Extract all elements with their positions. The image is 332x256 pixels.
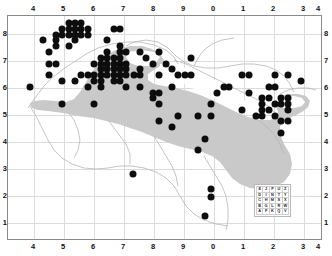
occurrence-dot	[27, 83, 34, 90]
axis-tick-left-7: 1	[0, 219, 7, 227]
occurrence-dot	[97, 83, 104, 90]
occurrence-dot	[149, 60, 156, 67]
axis-tick-bottom-4: 8	[146, 243, 160, 251]
utm-letter-grid-legend: E J P U Z D I N T Y C H M S X B	[254, 184, 291, 217]
occurrence-dot	[188, 54, 195, 61]
axis-tick-left-4: 4	[0, 138, 7, 146]
occurrence-dot	[207, 185, 214, 192]
axis-tick-top-10: 4	[311, 5, 325, 13]
occurrence-dot	[117, 25, 124, 32]
occurrence-dot	[156, 72, 163, 79]
occurrence-dot	[84, 31, 91, 38]
distribution-map-figure: 4 5 6 7 8 9 0 1 2 3 4 4 5 6 7 8 9 0 1 2 …	[0, 0, 332, 256]
occurrence-dot	[130, 170, 137, 177]
occurrence-dot	[194, 147, 201, 154]
occurrence-dot	[239, 106, 246, 113]
occurrence-dot	[59, 101, 66, 108]
axis-tick-bottom-8: 2	[266, 243, 280, 251]
occurrence-dot	[156, 49, 163, 56]
occurrence-dot	[136, 72, 143, 79]
occurrence-dot	[201, 212, 208, 219]
occurrence-dot	[278, 130, 285, 137]
axis-tick-left-3: 5	[0, 111, 7, 119]
occurrence-dot	[226, 83, 233, 90]
axis-tick-top-4: 8	[146, 5, 160, 13]
occurrence-dot	[59, 77, 66, 84]
occurrence-dot	[52, 43, 59, 50]
axis-tick-bottom-5: 9	[176, 243, 190, 251]
occurrence-dot	[168, 66, 175, 73]
occurrence-dot	[84, 83, 91, 90]
occurrence-dot	[245, 89, 252, 96]
axis-tick-left-2: 6	[0, 84, 7, 92]
occurrence-dot	[65, 43, 72, 50]
occurrence-dot	[39, 37, 46, 44]
occurrence-dot	[142, 54, 149, 61]
axis-tick-right-3: 5	[324, 111, 332, 119]
legend-letter-table: E J P U Z D I N T Y C H M S X B	[256, 186, 289, 215]
occurrence-dot	[207, 193, 214, 200]
occurrence-dot	[265, 106, 272, 113]
axis-tick-right-0: 8	[324, 30, 332, 38]
axis-tick-top-3: 7	[116, 5, 130, 13]
occurrence-dot	[52, 60, 59, 67]
axis-tick-top-8: 2	[266, 5, 280, 13]
axis-tick-top-2: 6	[86, 5, 100, 13]
axis-tick-right-1: 7	[324, 57, 332, 65]
occurrence-dot	[136, 83, 143, 90]
axis-tick-bottom-1: 5	[56, 243, 70, 251]
axis-tick-top-5: 9	[176, 5, 190, 13]
occurrence-dot	[71, 77, 78, 84]
occurrence-dot	[175, 112, 182, 119]
axis-tick-bottom-7: 1	[236, 243, 250, 251]
occurrence-dot	[162, 60, 169, 67]
occurrence-dot	[168, 124, 175, 131]
axis-tick-top-6: 0	[206, 5, 220, 13]
occurrence-dot	[297, 77, 304, 84]
occurrence-dot	[265, 95, 272, 102]
occurrence-dot	[272, 72, 279, 79]
legend-row: A F K Q V	[257, 209, 289, 215]
occurrence-dot	[188, 72, 195, 79]
occurrence-dot	[245, 72, 252, 79]
occurrence-dot	[214, 89, 221, 96]
axis-tick-bottom-0: 4	[26, 243, 40, 251]
axis-tick-bottom-6: 0	[206, 243, 220, 251]
axis-tick-right-7: 1	[324, 219, 332, 227]
occurrence-dot	[123, 83, 130, 90]
occurrence-dot	[285, 72, 292, 79]
occurrence-dot	[117, 77, 124, 84]
occurrence-dot	[258, 112, 265, 119]
axis-tick-right-4: 4	[324, 138, 332, 146]
occurrence-dot	[207, 101, 214, 108]
occurrence-dot	[201, 135, 208, 142]
axis-tick-bottom-9: 3	[296, 243, 310, 251]
occurrence-dot	[46, 72, 53, 79]
axis-tick-bottom-2: 6	[86, 243, 100, 251]
occurrence-dot	[285, 118, 292, 125]
axis-tick-left-1: 7	[0, 57, 7, 65]
occurrence-dot	[285, 106, 292, 113]
axis-tick-top-0: 4	[26, 5, 40, 13]
axis-tick-left-5: 3	[0, 165, 7, 173]
occurrence-dot	[168, 83, 175, 90]
occurrence-dot	[104, 37, 111, 44]
occurrence-dot	[46, 49, 53, 56]
axis-tick-bottom-3: 7	[116, 243, 130, 251]
axis-tick-left-0: 8	[0, 30, 7, 38]
occurrence-dot	[156, 101, 163, 108]
axis-tick-right-2: 6	[324, 84, 332, 92]
occurrence-dot	[156, 118, 163, 125]
occurrence-dot	[272, 112, 279, 119]
axis-tick-right-5: 3	[324, 165, 332, 173]
legend-cell: V	[282, 209, 288, 215]
axis-tick-left-6: 2	[0, 192, 7, 200]
occurrence-dot	[91, 101, 98, 108]
occurrence-dot	[207, 112, 214, 119]
axis-tick-top-1: 5	[56, 5, 70, 13]
occurrence-dot	[272, 83, 279, 90]
occurrence-dot	[156, 89, 163, 96]
axis-tick-bottom-10: 4	[311, 243, 325, 251]
axis-tick-top-7: 1	[236, 5, 250, 13]
occurrence-dot	[123, 49, 130, 56]
